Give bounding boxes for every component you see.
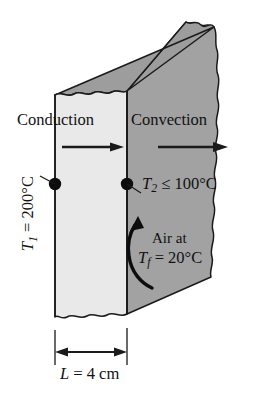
t1-subscript: 1 bbox=[26, 236, 40, 242]
label-t2-temperature: T2 ≤ 100°C bbox=[142, 176, 217, 195]
label-tf-temperature: Tf = 20°C bbox=[138, 250, 202, 269]
length-value: = 4 cm bbox=[69, 364, 119, 383]
t1-symbol: T bbox=[18, 242, 37, 251]
heat-transfer-diagram: Conduction Convection T1 = 200°C T2 ≤ 10… bbox=[0, 0, 258, 411]
tf-symbol: T bbox=[138, 248, 147, 267]
label-air-at: Air at bbox=[152, 231, 187, 246]
dimension-arrowhead-right bbox=[114, 348, 127, 357]
label-wall-thickness: L = 4 cm bbox=[60, 366, 119, 383]
label-conduction: Conduction bbox=[17, 112, 94, 129]
length-symbol: L bbox=[60, 364, 69, 383]
tf-value: = 20°C bbox=[151, 248, 203, 267]
label-convection: Convection bbox=[131, 112, 207, 129]
dimension-line bbox=[55, 328, 127, 365]
label-t1-temperature: T1 = 200°C bbox=[20, 159, 39, 269]
t1-value: = 200°C bbox=[18, 176, 37, 236]
dimension-arrowhead-left bbox=[55, 348, 68, 357]
t2-symbol: T bbox=[142, 174, 151, 193]
t2-value: ≤ 100°C bbox=[157, 174, 217, 193]
